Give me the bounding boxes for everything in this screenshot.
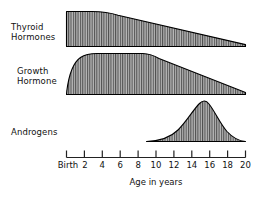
series-label-androgens-line1: Androgens xyxy=(11,127,57,137)
x-tick-label-6: 6 xyxy=(117,161,122,170)
series-label-growth-hormone: GrowthHormone xyxy=(17,66,57,86)
x-axis-title: Age in years xyxy=(130,177,183,187)
x-tick-label-14: 14 xyxy=(186,161,197,170)
series-label-thyroid-hormones: ThyroidHormones xyxy=(11,22,55,42)
series-label-growth-line1: Growth xyxy=(17,66,48,76)
series-label-thyroid-line2: Hormones xyxy=(11,32,55,42)
series-label-androgens: Androgens xyxy=(11,127,57,137)
series-label-thyroid-line1: Thyroid xyxy=(11,22,44,32)
x-tick-label-20: 20 xyxy=(240,161,251,170)
x-tick-label-8: 8 xyxy=(135,161,140,170)
x-tick-label-4: 4 xyxy=(100,161,105,170)
x-tick-label-birth: Birth xyxy=(58,161,78,170)
x-tick-label-16: 16 xyxy=(204,161,215,170)
x-tick-label-2: 2 xyxy=(82,161,87,170)
x-tick-label-12: 12 xyxy=(168,161,179,170)
x-tick-label-10: 10 xyxy=(151,161,162,170)
x-tick-label-18: 18 xyxy=(222,161,233,170)
series-label-growth-line2: Hormone xyxy=(17,76,57,86)
